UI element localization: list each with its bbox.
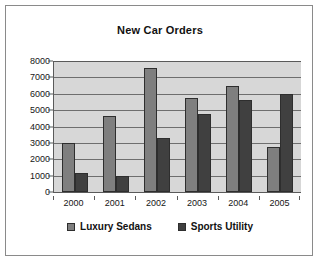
x-axis-tick-label: 2004	[228, 198, 248, 208]
legend-label: Sports Utility	[191, 221, 253, 232]
bar	[239, 100, 252, 192]
bar	[267, 147, 280, 192]
x-axis-tick-label: 2005	[269, 198, 289, 208]
x-axis-tick-label: 2003	[187, 198, 207, 208]
bar	[75, 173, 88, 192]
y-axis-tick-label: 0	[10, 187, 50, 197]
y-axis-tick-label: 7000	[10, 72, 50, 82]
x-axis-tick-label: 2000	[64, 198, 84, 208]
x-axis-tick-mark	[177, 196, 178, 200]
x-axis-tick-label: 2001	[105, 198, 125, 208]
legend-label: Luxury Sedans	[80, 221, 152, 232]
legend-entry[interactable]: Sports Utility	[178, 221, 253, 232]
y-axis-tick-label: 8000	[10, 56, 50, 66]
y-axis-tick-label: 1000	[10, 171, 50, 181]
legend-swatch-icon	[67, 223, 75, 231]
x-axis-tick-label: 2002	[146, 198, 166, 208]
legend-swatch-icon	[178, 223, 186, 231]
bar	[62, 143, 75, 192]
legend-entry[interactable]: Luxury Sedans	[67, 221, 152, 232]
bar	[280, 94, 293, 192]
y-axis-tick-label: 3000	[10, 138, 50, 148]
x-axis-tick-mark	[218, 196, 219, 200]
bar	[157, 138, 170, 192]
bar	[116, 176, 129, 192]
chart-legend: Luxury SedansSports Utility	[6, 221, 314, 232]
bar	[226, 86, 239, 192]
bar	[185, 98, 198, 192]
chart-title: New Car Orders	[6, 24, 314, 36]
y-axis-tick-label: 4000	[10, 122, 50, 132]
x-axis-tick-mark	[135, 196, 136, 200]
gridline	[54, 143, 301, 144]
x-axis-tick-mark	[259, 196, 260, 200]
y-axis-tick-label: 2000	[10, 154, 50, 164]
y-axis-tick-label: 6000	[10, 89, 50, 99]
chart-page-frame: New Car Orders 0100020003000400050006000…	[5, 5, 313, 256]
x-axis: 200020012002200320042005	[53, 196, 301, 212]
gridline	[54, 159, 301, 160]
gridline	[54, 110, 301, 111]
y-axis-tick-label: 5000	[10, 105, 50, 115]
gridline	[54, 61, 301, 62]
x-axis-tick-mark	[299, 196, 300, 200]
y-axis: 010002000300040005000600070008000	[6, 61, 50, 193]
gridline	[54, 77, 301, 78]
gridline	[54, 176, 301, 177]
bar	[198, 114, 211, 192]
bar	[144, 68, 157, 192]
x-axis-tick-mark	[94, 196, 95, 200]
x-axis-tick-mark	[53, 196, 54, 200]
gridline	[54, 94, 301, 95]
bar	[103, 116, 116, 192]
plot-area	[53, 61, 301, 193]
gridline	[54, 127, 301, 128]
